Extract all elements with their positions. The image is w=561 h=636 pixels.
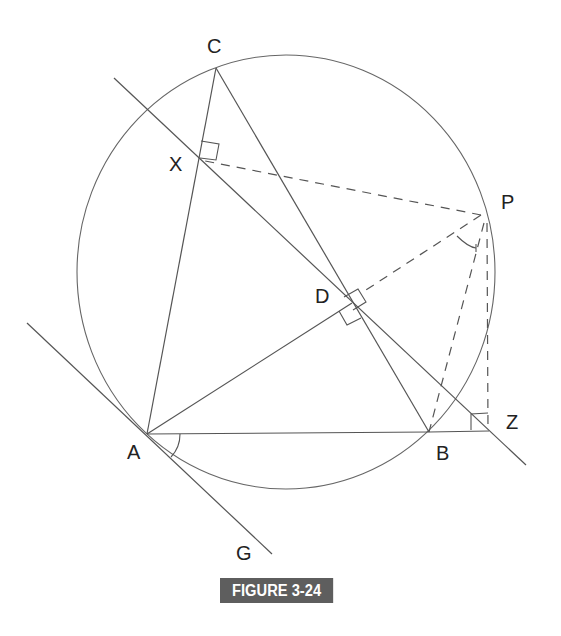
dashed-PZ	[487, 223, 488, 430]
label-D: D	[315, 286, 329, 306]
label-C: C	[207, 36, 221, 56]
dashed-PD	[366, 215, 481, 290]
segment-BZ	[429, 431, 489, 432]
label-Z: Z	[506, 412, 518, 432]
right-angle-mark-D-lower	[339, 311, 361, 325]
figure-caption: FIGURE 3-24	[220, 578, 333, 603]
segment-BC	[216, 68, 429, 432]
simson-line-XZ	[114, 78, 526, 465]
right-angle-mark-X	[200, 141, 219, 160]
angle-arc-P	[457, 236, 476, 248]
circumcircle	[77, 55, 495, 489]
label-P: P	[501, 192, 514, 212]
label-G: G	[236, 543, 252, 563]
dashed-PB	[429, 223, 484, 432]
geometry-diagram	[0, 0, 561, 636]
dashed-PX	[200, 160, 481, 215]
segment-AD	[147, 303, 352, 434]
segment-CA	[147, 68, 216, 434]
label-B: B	[436, 443, 449, 463]
label-A: A	[127, 442, 140, 462]
segment-AB	[147, 432, 429, 434]
tangent-line-AG	[27, 323, 272, 554]
label-X: X	[169, 154, 182, 174]
